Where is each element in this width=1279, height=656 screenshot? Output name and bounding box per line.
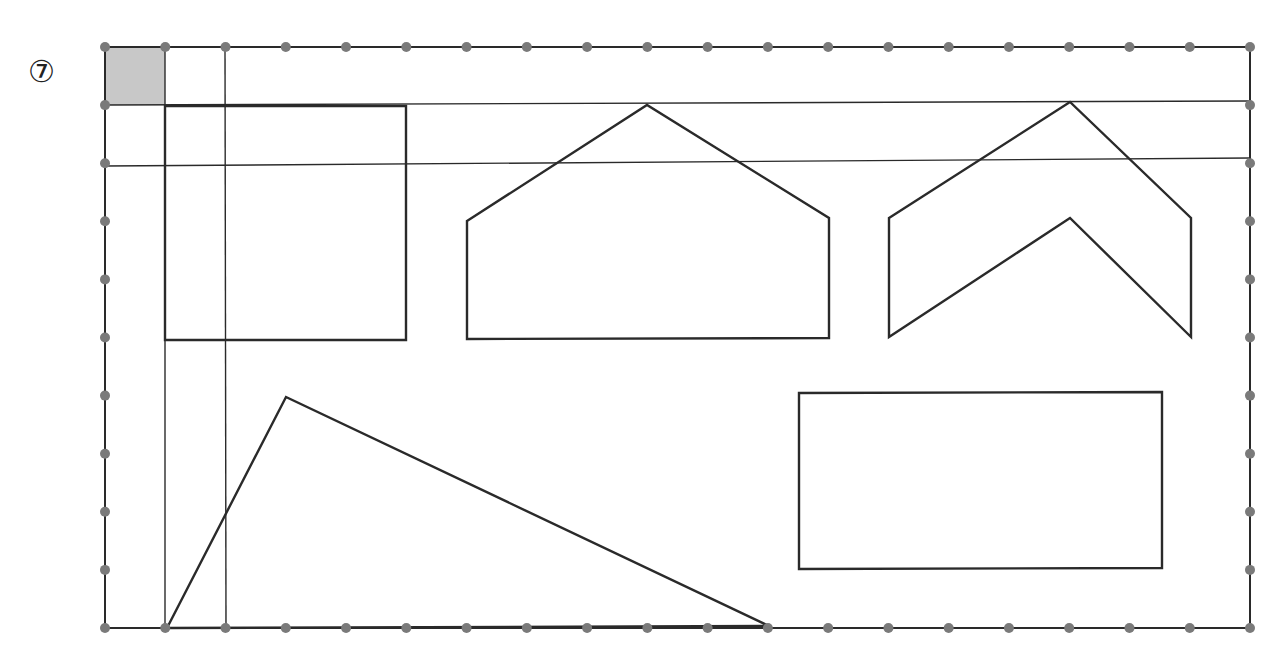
grid-dot (642, 623, 652, 633)
grid-dot (823, 42, 833, 52)
grid-dot (100, 42, 110, 52)
grid-dot (1185, 42, 1195, 52)
grid-dot (703, 42, 713, 52)
grid-dot (1004, 623, 1014, 633)
grid-dot (100, 391, 110, 401)
grid-dot (401, 623, 411, 633)
grid-dot (281, 623, 291, 633)
grid-dot (221, 42, 231, 52)
grid-dot (1124, 623, 1134, 633)
grid-dot (1245, 623, 1255, 633)
grid-dot (703, 623, 713, 633)
grid-dot (100, 449, 110, 459)
grid-dot (341, 623, 351, 633)
grid-dot (341, 42, 351, 52)
grid-dot (100, 507, 110, 517)
grid-dot (582, 42, 592, 52)
grid-dot (1245, 333, 1255, 343)
grid-dot (1245, 216, 1255, 226)
grid-dot (462, 42, 472, 52)
shape-pentagon-house (467, 105, 829, 339)
grid-dot (462, 623, 472, 633)
grid-dot (281, 42, 291, 52)
grid-dot (100, 216, 110, 226)
grid-dot (1245, 42, 1255, 52)
grid-dot (1245, 274, 1255, 284)
shape-chevron (889, 102, 1191, 337)
grid-dot (1245, 449, 1255, 459)
grid-dot (1245, 100, 1255, 110)
grid-dot (401, 42, 411, 52)
grid-dot (883, 623, 893, 633)
grid-dot (1064, 42, 1074, 52)
guide-line (225, 47, 226, 628)
grid-dot (944, 623, 954, 633)
grid-dot (221, 623, 231, 633)
shape-rectangle (799, 392, 1162, 569)
grid-dot (100, 623, 110, 633)
grid-dot (1124, 42, 1134, 52)
grid-dot (1185, 623, 1195, 633)
grid-dot (1245, 158, 1255, 168)
guide-line (105, 101, 1250, 105)
grid-dot (100, 333, 110, 343)
grid-dot (100, 565, 110, 575)
grid-dot (100, 274, 110, 284)
guide-line (105, 158, 1250, 166)
grid-figure (0, 0, 1279, 656)
grid-dot (160, 623, 170, 633)
grid-dot (522, 623, 532, 633)
grid-dot (1064, 623, 1074, 633)
grid-dot (883, 42, 893, 52)
grid-dot (522, 42, 532, 52)
grid-dot (642, 42, 652, 52)
grid-dot (823, 623, 833, 633)
grid-dot (1004, 42, 1014, 52)
grid-dot (100, 100, 110, 110)
shape-triangle (167, 397, 769, 628)
grid-dot (160, 42, 170, 52)
grid-dot (582, 623, 592, 633)
grid-dot (1245, 391, 1255, 401)
grid-dot (944, 42, 954, 52)
grid-dot (1245, 565, 1255, 575)
grid-dot (1245, 507, 1255, 517)
grid-dot (763, 42, 773, 52)
grid-dot (763, 623, 773, 633)
shape-square (165, 106, 406, 340)
unit-square (105, 47, 165, 105)
grid-dot (100, 158, 110, 168)
